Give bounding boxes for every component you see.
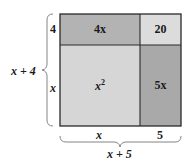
left-brace-label: x + 4 [11,65,36,77]
bottom-brace-label: x + 5 [107,148,132,160]
left-label-4: 4 [50,23,56,35]
left-label-x: x [50,82,56,94]
bottom-label-x: x [96,129,102,141]
bottom-label-5: 5 [157,129,163,141]
